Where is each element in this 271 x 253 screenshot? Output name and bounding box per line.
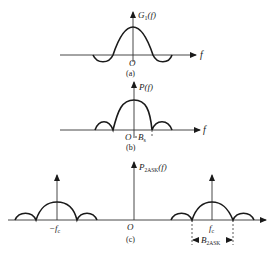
panel-a-origin-label: O <box>129 58 136 68</box>
svg-text:B2ASK: B2ASK <box>201 235 220 246</box>
svg-text:P2ASK(f): P2ASK(f) <box>138 162 167 173</box>
panel-b-caption: (b) <box>126 143 136 152</box>
svg-text:fc: fc <box>209 223 215 234</box>
svg-text:Bs: Bs <box>138 132 147 143</box>
panel-c-origin-label: O <box>127 222 134 232</box>
panel-a-f-label: f <box>200 49 204 60</box>
pos-carrier-sidebands <box>171 202 254 220</box>
svg-text:G1(f): G1(f) <box>138 10 156 21</box>
panel-a-sinc-curve <box>93 27 172 62</box>
panel-a-caption: (a) <box>126 69 135 78</box>
panel-c-caption: (c) <box>126 235 135 244</box>
panel-b-power-curve <box>95 100 172 130</box>
spectrum-diagram: G1(f) f O (a) P(f) f O Bs (b) <box>0 0 271 253</box>
panel-a-baseband-spectrum: G1(f) f O (a) <box>60 10 204 78</box>
neg-carrier-sidebands <box>15 202 97 220</box>
panel-b-origin-label: O <box>125 132 132 142</box>
svg-text:P(f): P(f) <box>138 82 153 92</box>
svg-text:−fc: −fc <box>49 223 61 234</box>
panel-c-2ask-spectrum: P2ASK(f) O −fc fc B2ASK (c) <box>8 162 266 246</box>
panel-b-f-label: f <box>203 124 207 135</box>
panel-b-power-spectrum: P(f) f O Bs (b) <box>60 82 207 152</box>
